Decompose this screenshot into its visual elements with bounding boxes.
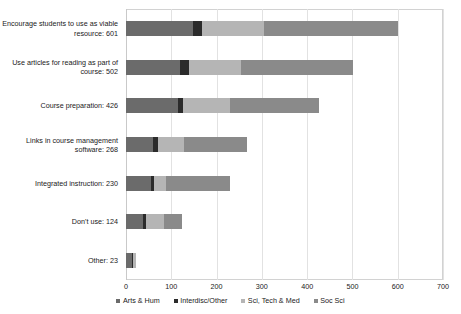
bar-segment [126, 98, 178, 113]
bar-row [126, 253, 443, 268]
x-tick-label: 500 [346, 282, 358, 292]
legend-item[interactable]: Interdisc/Other [174, 296, 228, 305]
bar-segment [126, 21, 193, 36]
bar-segment [158, 137, 184, 152]
legend-label: Arts & Hum [123, 296, 160, 305]
bar-segment [126, 214, 143, 229]
x-tick-label: 700 [437, 282, 449, 292]
stacked-bar-chart: Encourage students to use as viable reso… [0, 0, 461, 314]
x-tick-label: 200 [211, 282, 223, 292]
bar-segment [189, 60, 241, 75]
stacked-bar [126, 98, 443, 113]
stacked-bar [126, 21, 443, 36]
bar-segment [146, 214, 164, 229]
gridline [443, 9, 444, 280]
bar-segment [264, 21, 398, 36]
legend-item[interactable]: Sci, Tech & Med [241, 296, 299, 305]
bar-segment [164, 214, 183, 229]
bar-segment [183, 98, 230, 113]
stacked-bar [126, 60, 443, 75]
category-label: Links in course management software: 268 [0, 136, 118, 154]
category-label: Encourage students to use as viable reso… [0, 19, 118, 37]
plot-area [126, 9, 443, 280]
stacked-bar [126, 137, 443, 152]
category-label: Use articles for reading as part of cour… [0, 58, 118, 76]
bar-row [126, 98, 443, 113]
stacked-bar [126, 253, 443, 268]
legend-swatch-icon [314, 299, 318, 303]
bar-segment [166, 176, 230, 191]
bar-segment [126, 137, 153, 152]
bar-segment [202, 21, 264, 36]
category-label: Don't use: 124 [0, 217, 118, 226]
bar-segment [193, 21, 202, 36]
legend-label: Interdisc/Other [180, 296, 227, 305]
x-tick-label: 300 [256, 282, 268, 292]
bar-row [126, 21, 443, 36]
x-axis-tick-labels: 0100200300400500600700 [126, 282, 443, 296]
category-label: Integrated instruction: 230 [0, 179, 118, 188]
category-label: Other: 23 [0, 256, 118, 265]
bar-segment [126, 60, 180, 75]
bar-segment [126, 176, 151, 191]
bar-segment [241, 60, 353, 75]
legend-label: Sci, Tech & Med [248, 296, 300, 305]
category-axis-labels: Encourage students to use as viable reso… [0, 9, 122, 280]
legend-item[interactable]: Soc Sci [314, 296, 345, 305]
legend-label: Soc Sci [320, 296, 344, 305]
legend-swatch-icon [241, 299, 245, 303]
x-tick-label: 0 [124, 282, 128, 292]
category-label: Course preparation: 426 [0, 101, 118, 110]
x-tick-label: 600 [392, 282, 404, 292]
bar-rows [126, 9, 443, 280]
bar-segment [133, 253, 137, 268]
x-tick-label: 400 [301, 282, 313, 292]
bar-segment [180, 60, 189, 75]
bar-segment [184, 137, 247, 152]
bar-segment [154, 176, 166, 191]
bar-segment [230, 98, 319, 113]
chart-legend: Arts & HumInterdisc/OtherSci, Tech & Med… [0, 296, 461, 305]
bar-row [126, 176, 443, 191]
x-tick-label: 100 [165, 282, 177, 292]
legend-swatch-icon [174, 299, 178, 303]
stacked-bar [126, 176, 443, 191]
stacked-bar [126, 214, 443, 229]
legend-swatch-icon [116, 299, 120, 303]
legend-item[interactable]: Arts & Hum [116, 296, 159, 305]
bar-row [126, 60, 443, 75]
bar-row [126, 214, 443, 229]
bar-row [126, 137, 443, 152]
